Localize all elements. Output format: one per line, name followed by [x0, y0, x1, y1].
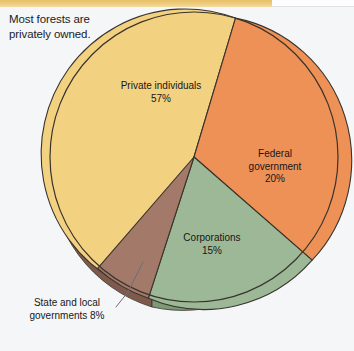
slice-label-private-individuals-value: 57%	[103, 93, 219, 106]
slice-label-federal-government-line2: government	[232, 161, 318, 174]
slice-label-state-local-governments: State and local governments 8%	[6, 297, 128, 322]
slice-label-corporations-name: Corporations	[183, 232, 240, 243]
slice-label-corporations: Corporations 15%	[168, 232, 256, 257]
slice-label-federal-government-value: 20%	[232, 173, 318, 186]
slice-label-federal-government-line1: Federal	[258, 148, 292, 159]
chart-page: Most forests are privately owned.	[0, 0, 354, 351]
slice-label-state-local-governments-line1: State and local	[34, 297, 100, 308]
slice-label-private-individuals: Private individuals 57%	[103, 80, 219, 105]
slice-label-state-local-governments-line2: governments	[29, 310, 87, 321]
slice-label-private-individuals-name: Private individuals	[121, 80, 202, 91]
slice-label-state-local-governments-value: 8%	[90, 310, 104, 321]
slice-label-federal-government: Federal government 20%	[232, 148, 318, 186]
slice-label-corporations-value: 15%	[168, 245, 256, 258]
